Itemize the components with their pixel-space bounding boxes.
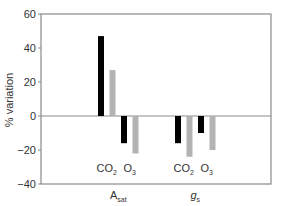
treatment-label: CO2 [174,162,195,176]
group-label: Asat [110,189,127,203]
bar-gray [187,116,193,157]
group-label: gs [190,189,200,203]
bar-black [98,36,104,116]
y-tick-label: 0 [30,110,36,122]
bars [98,36,216,157]
bar-black [198,116,204,133]
y-tick-label: 60 [24,8,36,20]
y-tick-label: −40 [17,178,36,190]
plot-frame [41,14,271,184]
bar-black [175,116,181,143]
category-labels: CO2O3AsatCO2O3gs [97,162,214,203]
treatment-label: CO2 [97,162,118,176]
y-tick-label: 40 [24,42,36,54]
bar-black [121,116,127,143]
treatment-label: O3 [124,162,137,176]
y-tick-label: 20 [24,76,36,88]
y-axis-ticks: 6040200−20−40 [17,8,41,190]
plot-border [41,14,271,184]
y-tick-label: −20 [17,144,36,156]
bar-gray [110,70,116,116]
treatment-label: O3 [201,162,214,176]
bar-gray [210,116,216,150]
bar-gray [133,116,139,153]
y-axis-label: % variation [3,73,15,127]
bar-chart: 6040200−20−40 CO2O3AsatCO2O3gs % variati… [0,0,281,206]
